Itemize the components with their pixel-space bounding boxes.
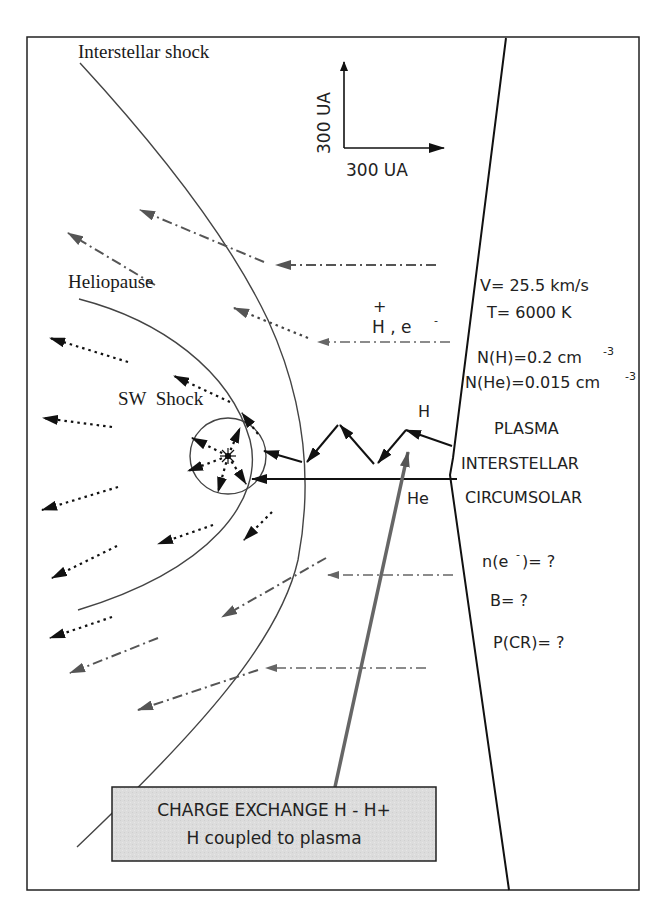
scale-bar: 300 UA 300 UA xyxy=(314,62,444,180)
scale-vertical-label: 300 UA xyxy=(314,92,334,154)
hydrogen-label: H xyxy=(418,402,430,421)
ion-text: H , e xyxy=(372,317,411,337)
plasma-label-line1: PLASMA xyxy=(494,419,559,438)
helium-label: He xyxy=(407,489,429,508)
cosmic-ray-pressure-value: P(CR)= ? xyxy=(493,633,564,652)
interstellar-parameters: V= 25.5 km/s T= 6000 K N(H)=0.2 cm -3 N(… xyxy=(461,276,636,652)
heliosphere-diagram: 300 UA 300 UA xyxy=(0,0,667,918)
charge-exchange-callout: CHARGE EXCHANGE H - H+ H coupled to plas… xyxy=(112,787,436,861)
ions-label: + H , e - xyxy=(372,297,438,337)
nhe-value: N(He)=0.015 cm xyxy=(465,373,600,392)
nhe-exponent: -3 xyxy=(625,370,636,383)
plasma-label-line2: INTERSTELLAR xyxy=(461,454,579,473)
velocity-value: V= 25.5 km/s xyxy=(480,276,589,295)
scale-horizontal-label: 300 UA xyxy=(346,160,408,180)
electron-density-label: n(e xyxy=(482,552,508,571)
heliopause-label: Heliopause xyxy=(68,271,153,292)
electron-density-tail: )= ? xyxy=(522,552,555,571)
sun-star-icon xyxy=(220,448,236,464)
magnetic-field-value: B= ? xyxy=(490,591,528,610)
solar-wind-arrows xyxy=(42,338,272,638)
interstellar-shock-curve xyxy=(77,63,305,847)
callout-line2: H coupled to plasma xyxy=(186,828,361,848)
electron-density-sup: - xyxy=(516,548,520,561)
ion-minus: - xyxy=(434,314,438,327)
nh-exponent: -3 xyxy=(603,345,614,358)
temperature-value: T= 6000 K xyxy=(486,303,572,322)
hydrogen-path-arrows xyxy=(264,425,452,464)
callout-line1: CHARGE EXCHANGE H - H+ xyxy=(157,800,391,820)
ion-plus: + xyxy=(373,297,386,316)
sw-shock-label: SW Shock xyxy=(118,388,204,409)
charge-exchange-arrow xyxy=(335,452,408,787)
plasma-label-line3: CIRCUMSOLAR xyxy=(465,488,582,507)
interstellar-shock-label: Interstellar shock xyxy=(78,41,210,62)
nh-value: N(H)=0.2 cm xyxy=(477,348,582,367)
